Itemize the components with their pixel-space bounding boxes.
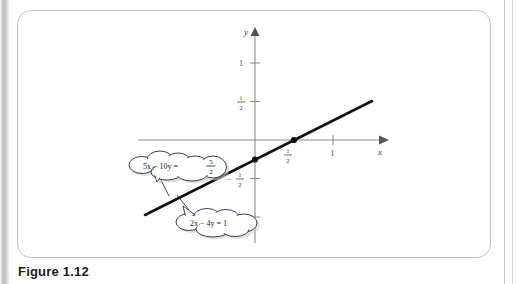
x-axis-label: x: [377, 147, 382, 157]
point-y-intercept: [252, 156, 258, 162]
figure-caption: Figure 1.12: [18, 264, 89, 279]
y-tick-neg-half-denominator: 2: [238, 181, 241, 188]
y-axis-label: y: [243, 27, 248, 37]
x-axis: [138, 136, 389, 145]
y-tick-half: 1 2: [237, 94, 260, 111]
coordinate-plot: x y 1 1 2 1 2 −: [17, 10, 491, 258]
x-tick-half-numerator: 1: [286, 147, 289, 154]
x-tick-half-denominator: 2: [286, 157, 289, 164]
plot-area: x y 1 1 2 1 2 −: [17, 10, 491, 258]
x-tick-1: 1: [331, 135, 335, 158]
y-axis-arrowhead: [251, 27, 260, 36]
page-rule-right: [504, 0, 505, 284]
y-tick-1-label: 1: [239, 59, 243, 68]
callout-lower-text: 2x − 4y = 1: [190, 219, 227, 228]
point-x-intercept: [291, 137, 297, 143]
x-tick-1-label: 1: [331, 149, 335, 158]
y-tick-half-denominator: 2: [239, 104, 242, 111]
y-tick-neg-half-sign: −: [227, 175, 232, 184]
y-tick-neg-half-numerator: 1: [238, 171, 241, 178]
callout-upper[interactable]: 5x − 10y = 5 2: [129, 151, 229, 196]
callout-lower[interactable]: 2x − 4y = 1: [176, 195, 260, 240]
callout-upper-lhs: 5x − 10y =: [143, 162, 179, 171]
x-axis-arrowhead: [379, 136, 389, 145]
page-edge-strip: [0, 0, 9, 284]
callout-upper-numerator: 5: [209, 158, 213, 166]
callout-upper-denominator: 2: [209, 168, 213, 176]
y-tick-1: 1: [239, 59, 260, 68]
y-axis: [251, 27, 260, 243]
page-rule-right-secondary: [512, 0, 513, 284]
figure-page: x y 1 1 2 1 2 −: [0, 0, 516, 284]
x-tick-half: 1 2: [284, 147, 292, 164]
y-tick-half-numerator: 1: [239, 94, 242, 101]
